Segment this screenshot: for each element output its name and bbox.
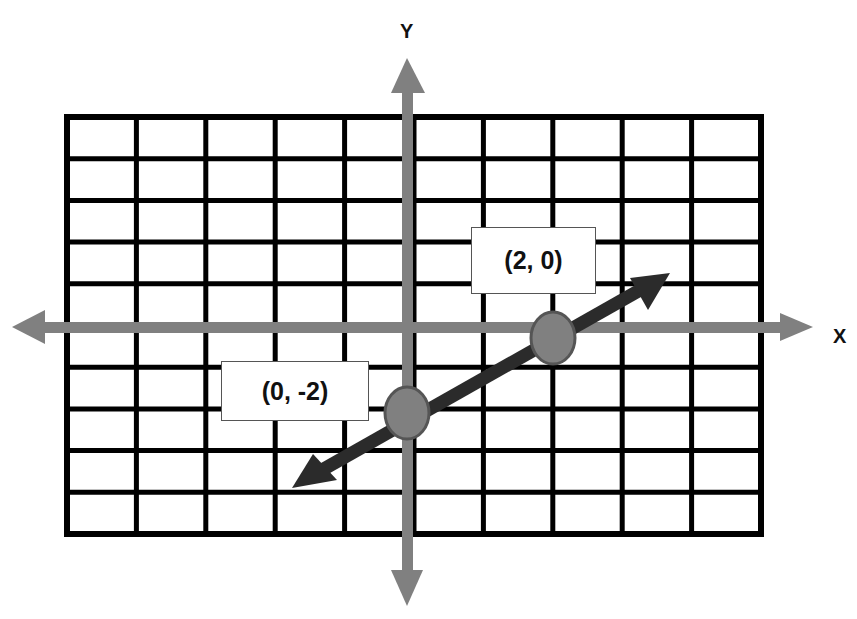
point-2-0-marker	[531, 312, 575, 364]
point-label-2-0: (2, 0)	[471, 227, 596, 294]
y-axis-down-arrow-icon	[391, 570, 423, 606]
point-0-neg2-marker	[385, 387, 429, 439]
x-axis-label: X	[833, 325, 846, 348]
graph-canvas	[0, 0, 857, 619]
x-axis-right-arrow-icon	[780, 313, 813, 341]
point-label-0-neg2: (0, -2)	[221, 361, 369, 421]
coordinate-plane-diagram: (2, 0) (0, -2) Y X	[0, 0, 857, 619]
x-axis-left-arrow-icon	[12, 310, 45, 344]
y-axis-label: Y	[400, 20, 413, 43]
y-axis-up-arrow-icon	[391, 58, 425, 93]
